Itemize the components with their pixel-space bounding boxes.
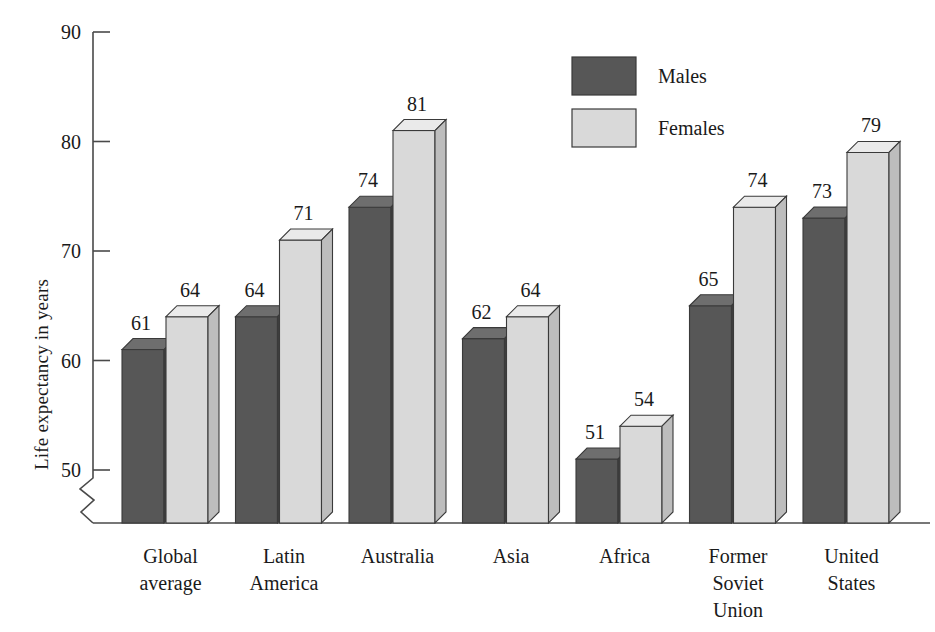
bar-value-label-males-5: 65 bbox=[699, 268, 719, 290]
bar-front-face bbox=[122, 350, 164, 523]
chart-plot-area: 50607080906164Globalaverage6471LatinAmer… bbox=[0, 0, 935, 632]
y-axis-tick-label-60: 60 bbox=[61, 350, 81, 372]
bar-value-label-females-1: 71 bbox=[294, 202, 314, 224]
x-axis-category-label-2: Australia bbox=[361, 545, 434, 567]
bar-side-face bbox=[322, 229, 333, 523]
bar-females-6 bbox=[847, 141, 900, 523]
bar-side-face bbox=[435, 120, 446, 523]
bar-females-1 bbox=[280, 229, 333, 523]
bar-females-3 bbox=[507, 306, 560, 523]
bar-value-label-males-2: 74 bbox=[358, 169, 378, 191]
bar-side-face bbox=[889, 141, 900, 523]
x-axis-category-label-5: Union bbox=[713, 599, 763, 621]
bar-value-label-females-6: 79 bbox=[861, 114, 881, 136]
x-axis-category-label-0: average bbox=[139, 572, 201, 595]
bar-value-label-males-3: 62 bbox=[472, 301, 492, 323]
bar-front-face bbox=[393, 131, 435, 523]
bar-front-face bbox=[236, 317, 278, 523]
bar-front-face bbox=[620, 426, 662, 523]
bar-side-face bbox=[776, 196, 787, 523]
bar-females-2 bbox=[393, 120, 446, 523]
legend-swatch-females bbox=[572, 109, 636, 147]
bar-value-label-females-5: 74 bbox=[748, 169, 768, 191]
bar-value-label-females-3: 64 bbox=[521, 279, 541, 301]
bar-front-face bbox=[507, 317, 549, 523]
bar-value-label-females-2: 81 bbox=[407, 93, 427, 115]
y-axis-tick-label-90: 90 bbox=[61, 21, 81, 43]
legend-label-females: Females bbox=[658, 117, 725, 139]
bar-value-label-females-0: 64 bbox=[180, 279, 200, 301]
legend-swatch-males bbox=[572, 57, 636, 95]
bar-value-label-females-4: 54 bbox=[634, 388, 654, 410]
bar-value-label-males-0: 61 bbox=[131, 312, 151, 334]
x-axis-category-label-5: Former bbox=[709, 545, 768, 567]
y-axis-tick-label-80: 80 bbox=[61, 131, 81, 153]
bar-front-face bbox=[166, 317, 208, 523]
bar-value-label-males-6: 73 bbox=[812, 180, 832, 202]
x-axis-category-label-3: Asia bbox=[493, 545, 530, 567]
y-axis-tick-label-50: 50 bbox=[61, 459, 81, 481]
bar-side-face bbox=[662, 415, 673, 523]
bar-front-face bbox=[349, 207, 391, 523]
legend-label-males: Males bbox=[658, 65, 707, 87]
bar-females-4 bbox=[620, 415, 673, 523]
y-axis-tick-label-70: 70 bbox=[61, 240, 81, 262]
x-axis-category-label-1: Latin bbox=[263, 545, 305, 567]
bar-front-face bbox=[734, 207, 776, 523]
x-axis-category-label-0: Global bbox=[143, 545, 198, 567]
x-axis-category-label-6: United bbox=[824, 545, 878, 567]
x-axis-category-label-4: Africa bbox=[599, 545, 650, 567]
bar-value-label-males-1: 64 bbox=[245, 279, 265, 301]
bar-side-face bbox=[208, 306, 219, 523]
bar-front-face bbox=[690, 306, 732, 523]
bar-front-face bbox=[847, 152, 889, 523]
bar-females-0 bbox=[166, 306, 219, 523]
bar-females-5 bbox=[734, 196, 787, 523]
bar-front-face bbox=[280, 240, 322, 523]
bar-front-face bbox=[463, 339, 505, 523]
life-expectancy-bar-chart: Life expectancy in years 50607080906164G… bbox=[0, 0, 935, 632]
y-axis-line-with-break bbox=[80, 32, 94, 523]
bar-front-face bbox=[803, 218, 845, 523]
bar-value-label-males-4: 51 bbox=[585, 421, 605, 443]
x-axis-category-label-1: America bbox=[250, 572, 319, 594]
x-axis-category-label-5: Soviet bbox=[712, 572, 764, 594]
bar-front-face bbox=[576, 459, 618, 523]
x-axis-category-label-6: States bbox=[828, 572, 876, 594]
bar-side-face bbox=[549, 306, 560, 523]
